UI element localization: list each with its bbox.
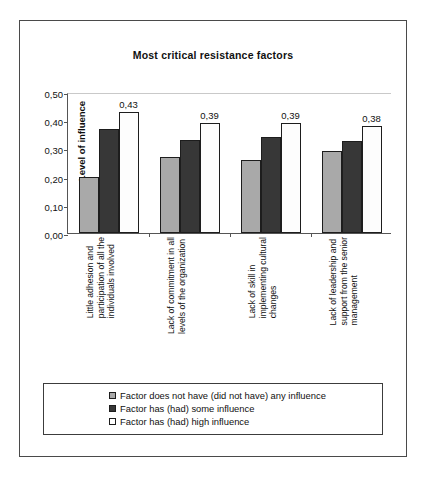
- y-tick-label: 0,50: [45, 89, 64, 100]
- legend-swatch: [109, 392, 116, 399]
- figure-frame: Most critical resistance factors Level o…: [19, 20, 407, 457]
- legend-item[interactable]: Factor has (had) some influence: [44, 402, 382, 415]
- bar: 0,43: [119, 112, 139, 233]
- category-labels: Little adhesion andparticipation of all …: [67, 237, 391, 377]
- legend-item[interactable]: Factor does not have (did not have) any …: [44, 389, 382, 402]
- y-tick-label: 0,20: [45, 173, 64, 184]
- bar: [79, 177, 99, 233]
- bar: [241, 160, 261, 233]
- y-tick-label: 0,30: [45, 145, 64, 156]
- category-label-line: Lack of commitment in all: [166, 237, 177, 334]
- bar: [322, 151, 342, 233]
- y-tick-label: 0,10: [45, 201, 64, 212]
- category-label-line: Little adhesion and: [85, 237, 96, 318]
- bar: 0,39: [200, 123, 220, 233]
- legend-swatch: [109, 405, 116, 412]
- bar-group: 0,39: [149, 94, 230, 233]
- legend-swatch: [109, 418, 116, 425]
- category-label-line: changes: [268, 237, 279, 318]
- bar-group: 0,39: [230, 94, 311, 233]
- category-label: Lack of leadership andsupport from the s…: [328, 237, 360, 325]
- bar-group: 0,43: [68, 94, 149, 233]
- category-label: Lack of skill inimplementing culturalcha…: [247, 237, 279, 318]
- bar: [180, 140, 200, 233]
- category-label-line: implementing cultural: [258, 237, 269, 318]
- bar: 0,39: [281, 123, 301, 233]
- chart-legend: Factor does not have (did not have) any …: [43, 383, 383, 435]
- category-label-line: management: [349, 237, 360, 325]
- bar-group: 0,38: [311, 94, 392, 233]
- y-tick-label: 0,00: [45, 230, 64, 241]
- category-label-line: Lack of leadership and: [328, 237, 339, 325]
- y-tick-label: 0,40: [45, 117, 64, 128]
- legend-label: Factor has (had) some influence: [120, 403, 254, 414]
- bar-value-label: 0,38: [362, 113, 381, 124]
- category-label-line: individuals involved: [106, 237, 117, 318]
- bars-layer: 0,430,390,390,38: [68, 94, 391, 233]
- category-label-line: levels of the organization: [177, 237, 188, 334]
- bar: [160, 157, 180, 233]
- legend-label: Factor does not have (did not have) any …: [120, 390, 326, 401]
- category-label-line: participation of all the: [96, 237, 107, 318]
- plot-wrapper: Level of influence 0,500,400,300,200,100…: [67, 93, 391, 234]
- bar: 0,38: [362, 126, 382, 233]
- category-label-line: support from the senior: [339, 237, 350, 325]
- legend-label: Factor has (had) high influence: [120, 416, 249, 427]
- bar-value-label: 0,43: [119, 99, 138, 110]
- category-label: Lack of commitment in alllevels of the o…: [166, 237, 187, 334]
- bar: [99, 129, 119, 233]
- chart-title: Most critical resistance factors: [20, 49, 406, 61]
- bar: [342, 141, 362, 233]
- y-tick-mark: [64, 235, 68, 236]
- legend-item[interactable]: Factor has (had) high influence: [44, 415, 382, 428]
- plot-area: 0,500,400,300,200,100,00 0,430,390,390,3…: [67, 93, 391, 234]
- bar-value-label: 0,39: [200, 110, 219, 121]
- bar: [261, 137, 281, 233]
- category-label-line: Lack of skill in: [247, 237, 258, 318]
- category-label: Little adhesion andparticipation of all …: [85, 237, 117, 318]
- bar-value-label: 0,39: [281, 110, 300, 121]
